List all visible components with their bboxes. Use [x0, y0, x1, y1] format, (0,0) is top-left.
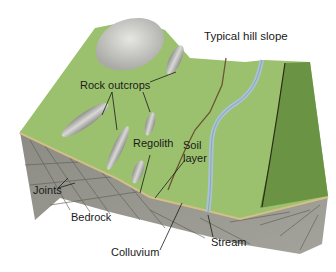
diagram-title: Typical hill slope	[204, 30, 288, 42]
label-stream: Stream	[211, 236, 246, 248]
label-joints: Joints	[33, 184, 62, 196]
label-soil-layer-line2: layer	[183, 152, 207, 164]
label-regolith: Regolith	[133, 137, 173, 149]
label-rock-outcrops: Rock outcrops	[80, 79, 150, 91]
label-colluvium: Colluvium	[111, 246, 159, 258]
hill-slope-diagram: Typical hill slope Rock outcrops Regolit…	[0, 0, 336, 272]
label-soil-layer-line1: Soil	[183, 139, 201, 151]
label-bedrock: Bedrock	[71, 211, 111, 223]
